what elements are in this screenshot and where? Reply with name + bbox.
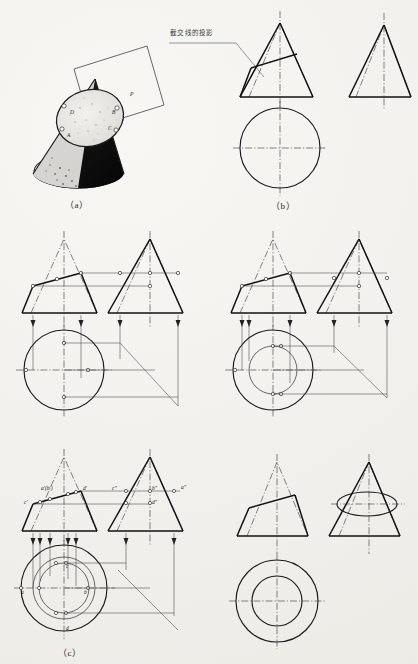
d-front-left-lower (231, 286, 242, 313)
panel-c: a'(b') d' c' c" b" d" a" a b c d （c） (0, 228, 209, 446)
c-front-right-lower (81, 273, 97, 313)
c-arrow-1 (31, 320, 36, 327)
panel-f: （f） (209, 446, 418, 664)
side-right-edge (384, 25, 411, 97)
e-point-hdoubleprime (172, 489, 175, 492)
e-point-fdoubleprime (124, 501, 127, 504)
c-side-right-edge (150, 239, 183, 313)
caption-b: （b） (271, 199, 295, 212)
c-point-ddoubleprime (148, 284, 151, 287)
d-arrow-2 (288, 320, 293, 327)
point-a-marker (60, 127, 64, 131)
panel-b-top-view (233, 101, 327, 196)
d-mitre-45-line (334, 346, 387, 398)
figure-page: P A B C D （a） 截交线的投影 (0, 0, 418, 664)
c-point-cdoubleprime (118, 271, 121, 274)
point-c-marker (114, 128, 118, 132)
panel-f-front-view (237, 454, 308, 554)
c-arrow-3 (118, 320, 123, 327)
panel-c-drawing (0, 228, 209, 446)
label-c: C (108, 126, 112, 132)
front-left-edge (240, 23, 280, 97)
panel-b-side-view (349, 13, 411, 110)
f-side-left-edge (329, 462, 369, 536)
side-left-edge (349, 25, 384, 97)
e-point-eprime (38, 500, 41, 503)
label-d: D (70, 110, 74, 116)
e-side-left-edge (108, 457, 150, 531)
panel-e-front-view (22, 449, 97, 546)
d-side-left-edge (317, 239, 359, 313)
e-point-e (54, 611, 57, 614)
side-cone-hidden-apex (356, 25, 411, 97)
d-arrow-1b (247, 320, 252, 327)
d-arrow-3 (332, 320, 337, 327)
e-point-hprime (74, 490, 77, 493)
c-arrow-4 (176, 320, 181, 327)
e-side-right-edge (150, 457, 183, 531)
panel-e: e' g' (f') (h') b" g" f" e" f g e h （e） (0, 446, 209, 664)
c-point-adoubleprime (176, 271, 179, 274)
e-point-f (54, 561, 57, 564)
panel-d-projection-arrows (240, 315, 390, 398)
caption-a: （a） (65, 198, 89, 211)
e-arrow-6 (124, 538, 129, 545)
f-front-section-line (249, 495, 295, 508)
d-point-cdprime (264, 277, 267, 280)
d-point-ddoubleprime (332, 276, 335, 279)
d-point-cdoubleprime (385, 276, 388, 279)
point-b-marker (115, 106, 119, 110)
d-arrow-4 (385, 320, 390, 327)
d-point-adoubleprime (357, 284, 360, 287)
label-a: A (67, 133, 70, 139)
c-arrow-2 (79, 320, 84, 327)
e-point-fprime (48, 497, 51, 500)
e-front-right-lower (81, 491, 97, 531)
d-point-a (233, 368, 236, 371)
front-right-edge (280, 23, 313, 97)
front-left-lower-edge (240, 68, 251, 97)
c-side-left-edge (108, 239, 150, 313)
panel-c-top-view (16, 324, 112, 418)
panel-c-front-view (22, 231, 97, 328)
panel-c-projection-arrows (31, 315, 181, 406)
panel-b-front-view (240, 11, 313, 110)
e-arrow-1 (31, 538, 36, 545)
f-front-left-lower (237, 508, 249, 536)
e-arrow-7 (172, 538, 177, 545)
panel-f-drawing (209, 446, 418, 664)
label-p: P (130, 92, 133, 98)
panel-b: （b） (209, 0, 418, 225)
point-d-marker (62, 104, 66, 108)
e-point-bdoubleprime (148, 489, 151, 492)
c-point-bdoubleprime (148, 271, 151, 274)
e-front-left-lower (22, 504, 33, 531)
e-point-gdoubleprime (124, 489, 127, 492)
panel-d-front-view (231, 231, 306, 328)
e-point-a (19, 586, 22, 589)
panel-d-drawing (209, 228, 418, 446)
c-front-left-lower (22, 286, 33, 313)
panel-d-top-view (225, 324, 321, 418)
e-arrow-4 (66, 538, 71, 545)
d-front-right-lower (290, 273, 306, 313)
f-side-right-edge (369, 462, 400, 536)
e-point-gprime (66, 492, 69, 495)
front-cone-hidden-apex (249, 23, 313, 97)
d-point-bdoubleprime (357, 271, 360, 274)
panel-d: c'(d') b' a' b" d" c" a" a b c d （d） (209, 228, 418, 446)
f-front-hidden-apex (247, 462, 308, 536)
e-arrow-2 (38, 538, 43, 545)
e-arrow-5 (74, 538, 79, 545)
front-section-line (251, 54, 297, 68)
panel-f-side-view (329, 454, 405, 554)
e-point-c (37, 586, 40, 589)
e-arrow-3 (48, 538, 53, 545)
e-point-edoubleprime (148, 501, 151, 504)
d-arrow-1 (240, 320, 245, 327)
panel-b-drawing (209, 0, 418, 225)
f-front-right-lower (295, 495, 308, 536)
panel-e-drawing (0, 446, 209, 664)
c-point-abprime (55, 277, 58, 280)
c-point-a (24, 368, 27, 371)
